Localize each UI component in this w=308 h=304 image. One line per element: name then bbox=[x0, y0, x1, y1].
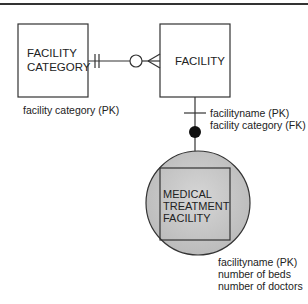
entity-name-line: TREATMENT bbox=[163, 200, 229, 212]
attribute: facilityname (PK) bbox=[218, 256, 303, 268]
entity-name-line: CATEGORY bbox=[27, 60, 90, 74]
attribute-facility-category-fk: facility category (FK) bbox=[210, 118, 306, 132]
entity-name-line: MEDICAL bbox=[163, 188, 229, 200]
filled-dot-icon bbox=[189, 126, 201, 138]
attributes-medical-treatment-facility: facilityname (PK) number of beds number … bbox=[218, 256, 303, 292]
attribute: number of doctors bbox=[218, 280, 303, 292]
entity-name-line: FACILITY bbox=[27, 46, 90, 60]
entity-name-line: FACILITY bbox=[163, 212, 229, 224]
crows-foot-icon bbox=[148, 54, 160, 61]
entity-name-medical-treatment-facility: MEDICAL TREATMENT FACILITY bbox=[163, 188, 229, 224]
zero-circle-icon bbox=[130, 55, 142, 67]
attribute: number of beds bbox=[218, 268, 303, 280]
entity-name-facility-category: FACILITY CATEGORY bbox=[27, 46, 90, 74]
attribute-facility-category-pk: facility category (PK) bbox=[23, 103, 119, 117]
entity-name-facility: FACILITY bbox=[175, 54, 225, 68]
